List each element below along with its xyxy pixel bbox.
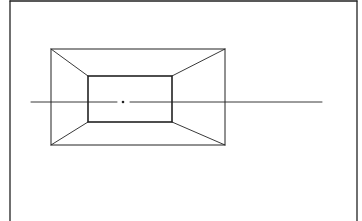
corner-line-bottom-right xyxy=(172,122,225,145)
inner-rectangle xyxy=(88,76,172,122)
corner-line-top-right xyxy=(172,49,225,76)
perspective-diagram xyxy=(0,0,362,221)
vanishing-point xyxy=(122,101,125,104)
outer-rectangle xyxy=(51,49,225,145)
corner-line-top-left xyxy=(51,49,88,76)
corner-line-bottom-left xyxy=(51,122,88,145)
